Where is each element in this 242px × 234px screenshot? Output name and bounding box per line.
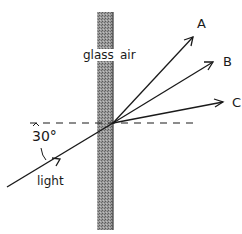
light-label: light — [37, 175, 64, 187]
glass-slab — [97, 12, 113, 230]
ray-c-label: C — [232, 96, 241, 109]
glass-label: glass — [82, 49, 115, 61]
ray-a-label: A — [197, 17, 206, 30]
ray-b-label: B — [223, 55, 232, 68]
refraction-diagram — [0, 0, 242, 234]
angle-label: 30° — [32, 129, 57, 143]
air-label: air — [120, 49, 136, 61]
angle-pointer-icon — [41, 148, 46, 160]
